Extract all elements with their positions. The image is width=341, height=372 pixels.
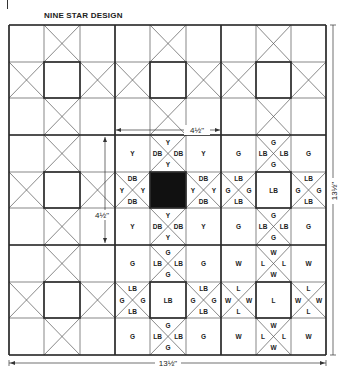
triangle-label: G (119, 297, 124, 304)
triangle-label: G (271, 234, 276, 241)
dimension-label-block-height: 4½" (95, 211, 109, 220)
triangle-label: W (246, 297, 253, 304)
corner-square-label: G (236, 150, 241, 157)
triangle-label: DB (199, 175, 209, 182)
corner-square-label: Y (130, 223, 135, 230)
triangle-label: G (225, 187, 230, 194)
star-center-square (44, 172, 80, 208)
corner-square-label: W (235, 333, 242, 340)
center-square-label: LB (269, 187, 278, 194)
triangle-label: L (261, 260, 265, 267)
dimension-label-total-width: 13½" (159, 359, 178, 368)
arrow-head (116, 128, 121, 132)
corner-square-label: Y (201, 223, 206, 230)
triangle-label: LB (259, 150, 268, 157)
corner-square-label: Y (130, 150, 135, 157)
corner-square-label: G (306, 223, 311, 230)
triangle-label: W (270, 249, 277, 256)
corner-square-label: G (201, 333, 206, 340)
triangle-label: Y (191, 187, 196, 194)
triangle-label: Y (120, 187, 125, 194)
triangle-label: DB (128, 198, 138, 205)
triangle-label: L (237, 308, 241, 315)
corner-square-label: W (305, 260, 312, 267)
quilt-diagram: YYYYYYDBDBYYDBDBDBDBYYDBDBYYGGGGLBGGLBLB… (0, 0, 341, 372)
star-center-square (150, 62, 186, 98)
triangle-label: G (316, 187, 321, 194)
triangle-label: G (211, 297, 216, 304)
center-square-label: L (272, 297, 276, 304)
triangle-label: Y (166, 139, 171, 146)
triangle-label: G (271, 139, 276, 146)
corner-square-label: W (235, 260, 242, 267)
triangle-label: G (271, 212, 276, 219)
triangle-label: LB (153, 333, 162, 340)
corner-square-label: G (130, 260, 135, 267)
triangle-label: DB (199, 198, 209, 205)
arrow-head (215, 128, 220, 132)
triangle-label: LB (234, 175, 243, 182)
triangle-label: LB (174, 333, 183, 340)
triangle-label: DB (153, 223, 163, 230)
triangle-label: W (316, 297, 323, 304)
triangle-label: LB (199, 308, 208, 315)
triangle-label: Y (212, 187, 217, 194)
corner-square-label: G (130, 333, 135, 340)
triangle-label: L (307, 308, 311, 315)
triangle-label: L (261, 333, 265, 340)
triangle-label: LB (128, 308, 137, 315)
triangle-label: W (270, 344, 277, 351)
star-center-square (256, 62, 291, 98)
triangle-label: W (225, 297, 232, 304)
triangle-label: G (190, 297, 195, 304)
center-square-label: LB (164, 297, 173, 304)
triangle-label: LB (199, 285, 208, 292)
triangle-label: LB (234, 198, 243, 205)
triangle-label: G (246, 187, 251, 194)
triangle-label: LB (128, 285, 137, 292)
triangle-label: DB (174, 223, 184, 230)
corner-square-label: G (306, 150, 311, 157)
triangle-label: G (140, 297, 145, 304)
triangle-label: LB (174, 260, 183, 267)
triangle-label: L (307, 285, 311, 292)
triangle-label: W (295, 297, 302, 304)
triangle-label: G (165, 271, 170, 278)
star-center-square (44, 62, 80, 98)
triangle-label: DB (174, 150, 184, 157)
triangle-label: G (295, 187, 300, 194)
dimension-label-block-width: 4½" (190, 126, 204, 135)
triangle-label: G (165, 322, 170, 329)
arrow-head (10, 361, 15, 365)
triangle-label: Y (141, 187, 146, 194)
star-center-square (44, 282, 80, 318)
triangle-label: L (237, 285, 241, 292)
corner-square-label: G (201, 260, 206, 267)
arrow-head (103, 238, 107, 243)
triangle-label: LB (304, 198, 313, 205)
arrow-head (320, 361, 325, 365)
corner-square-label: W (305, 333, 312, 340)
triangle-label: LB (153, 260, 162, 267)
triangle-label: W (270, 322, 277, 329)
triangle-label: G (165, 249, 170, 256)
triangle-label: DB (128, 175, 138, 182)
triangle-label: W (270, 271, 277, 278)
corner-square-label: Y (201, 150, 206, 157)
triangle-label: LB (280, 223, 289, 230)
triangle-label: LB (304, 175, 313, 182)
dark-center-square (150, 172, 186, 208)
arrow-head (103, 137, 107, 142)
triangle-label: L (282, 333, 286, 340)
triangle-label: Y (166, 212, 171, 219)
triangle-label: G (271, 161, 276, 168)
triangle-label: LB (259, 223, 268, 230)
triangle-label: LB (280, 150, 289, 157)
triangle-label: G (165, 344, 170, 351)
triangle-label: Y (166, 234, 171, 241)
triangle-label: L (282, 260, 286, 267)
triangle-label: Y (166, 161, 171, 168)
corner-square-label: G (236, 223, 241, 230)
dimension-label-total-height: 13½" (330, 182, 339, 201)
triangle-label: DB (153, 150, 163, 157)
